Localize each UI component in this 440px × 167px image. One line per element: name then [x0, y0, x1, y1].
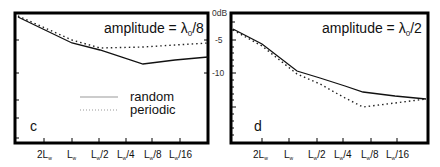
panel-c-letter: c: [30, 118, 37, 134]
panel-d-title: amplitude = λ0/2: [322, 20, 422, 38]
x-label-lw-4: Lw/4: [117, 149, 135, 161]
x-label-lw-16: Lw/16: [169, 149, 193, 161]
x-label-2lw: 2Lw: [253, 149, 268, 161]
x-label-lw-4: Lw/4: [334, 149, 352, 161]
x-label-lw-8: Lw/8: [361, 149, 379, 161]
y-label-minus5: -5: [215, 35, 223, 45]
panel-c: amplitude = λ0/8 random periodic c 2Lw L…: [15, 13, 208, 161]
x-label-lw-16: Lw/16: [386, 149, 410, 161]
legend-periodic-label: periodic: [130, 102, 176, 117]
y-label-0db: 0dB: [212, 8, 227, 18]
panel-d-x-labels: 2Lw Lw Lw/2 Lw/4 Lw/8 Lw/16: [253, 149, 410, 161]
y-label-minus10: -10: [212, 68, 225, 78]
panel-c-x-labels: 2Lw Lw Lw/2 Lw/4 Lw/8 Lw/16: [37, 149, 193, 161]
x-label-2lw: 2Lw: [37, 149, 52, 161]
panel-d-letter: d: [254, 118, 262, 134]
panel-c-y-ticks: [15, 40, 208, 138]
x-label-lw: Lw: [67, 149, 77, 161]
panel-c-legend: random periodic: [80, 89, 176, 117]
panel-d-random-line: [233, 29, 426, 99]
x-label-lw: Lw: [284, 149, 294, 161]
shared-y-axis-labels: 0dB -5 -10: [212, 8, 227, 78]
panel-d: amplitude = λ0/2 d 2Lw Lw Lw/2 Lw/4 Lw/8…: [231, 13, 428, 161]
figure-panels-c-d: amplitude = λ0/8 random periodic c 2Lw L…: [0, 0, 440, 167]
x-label-lw-2: Lw/2: [308, 149, 326, 161]
panel-d-periodic-line: [233, 30, 426, 107]
x-label-lw-8: Lw/8: [144, 149, 162, 161]
x-label-lw-2: Lw/2: [91, 149, 109, 161]
panel-c-title: amplitude = λ0/8: [104, 20, 204, 38]
